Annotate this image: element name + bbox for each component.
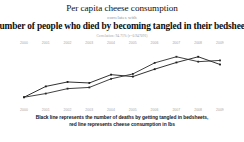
x-tick-label: 2008 bbox=[191, 107, 205, 114]
data-point-marker bbox=[197, 61, 199, 63]
data-point-marker bbox=[45, 86, 47, 88]
correlation-coefficient-note: Correlation: 94.71% (r=0.947091) bbox=[96, 34, 147, 39]
x-tick-label: 2008 bbox=[191, 40, 205, 47]
x-axis-bottom: 2000 2001 2002 2003 2004 2005 2006 2007 … bbox=[0, 107, 244, 114]
x-tick-label: 2005 bbox=[126, 40, 140, 47]
plot-area bbox=[0, 47, 244, 107]
x-tick-label: 2005 bbox=[126, 107, 140, 114]
data-point-marker bbox=[219, 64, 221, 66]
series-line-bedsheet-deaths bbox=[24, 57, 220, 97]
data-point-marker bbox=[45, 93, 47, 95]
x-tick-label: 2004 bbox=[104, 40, 118, 47]
data-point-marker bbox=[88, 82, 90, 84]
x-tick-label: 2001 bbox=[39, 107, 53, 114]
data-point-marker bbox=[110, 78, 112, 80]
data-point-marker bbox=[176, 62, 178, 64]
data-point-marker bbox=[154, 68, 156, 70]
x-tick-label: 2003 bbox=[82, 107, 96, 114]
x-tick-label: 2002 bbox=[61, 107, 75, 114]
x-tick-label: 2009 bbox=[213, 40, 227, 47]
x-tick-label: 2006 bbox=[148, 107, 162, 114]
chart-legend-caption: Black line represents the number of deat… bbox=[0, 115, 244, 128]
data-point-marker bbox=[197, 56, 199, 58]
x-tick-label: 2000 bbox=[17, 40, 31, 47]
page-title-secondary: Number of people who died by becoming ta… bbox=[0, 21, 244, 32]
chart-container: 2000 2001 2002 2003 2004 2005 2006 2007 … bbox=[0, 40, 244, 114]
spurious-correlation-chart-page: Per capita cheese consumption correlates… bbox=[0, 0, 244, 142]
data-point-marker bbox=[132, 73, 134, 75]
data-point-marker bbox=[88, 87, 90, 89]
x-tick-label: 2009 bbox=[213, 107, 227, 114]
chart-svg bbox=[0, 47, 244, 107]
page-title-primary: Per capita cheese consumption bbox=[66, 3, 178, 14]
data-point-marker bbox=[154, 62, 156, 64]
data-point-marker bbox=[176, 56, 178, 58]
x-tick-label: 2006 bbox=[148, 40, 162, 47]
x-tick-label: 2000 bbox=[17, 107, 31, 114]
x-tick-label: 2001 bbox=[39, 40, 53, 47]
data-point-marker bbox=[110, 74, 112, 76]
data-point-marker bbox=[67, 88, 69, 90]
x-tick-label: 2004 bbox=[104, 107, 118, 114]
caption-line-red: red line represents cheese consumption i… bbox=[0, 122, 244, 129]
data-point-marker bbox=[23, 96, 25, 98]
x-tick-label: 2007 bbox=[169, 40, 183, 47]
data-point-marker bbox=[67, 81, 69, 83]
data-point-marker bbox=[219, 60, 221, 62]
x-tick-label: 2002 bbox=[61, 40, 75, 47]
caption-line-black: Black line represents the number of deat… bbox=[0, 115, 244, 122]
x-tick-label: 2003 bbox=[82, 40, 96, 47]
x-axis-top: 2000 2001 2002 2003 2004 2005 2006 2007 … bbox=[0, 40, 244, 47]
correlates-with-label: correlates with bbox=[107, 15, 136, 21]
series-line-cheese-consumption bbox=[24, 57, 220, 97]
x-tick-label: 2007 bbox=[169, 107, 183, 114]
data-point-marker bbox=[132, 76, 134, 78]
